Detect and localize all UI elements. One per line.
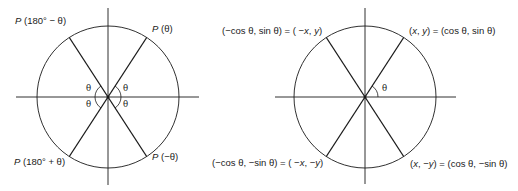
label-p-180-minus-theta: P (180° − θ): [15, 15, 66, 26]
left-angle-label-upper-right: θ: [123, 84, 128, 93]
label-cos-neg-sin: (x, −y) = (cos θ, −sin θ): [410, 158, 507, 169]
right-radius-q4: [365, 97, 404, 157]
left-angle-label-lower-right: θ: [123, 100, 128, 109]
right-radius-q3: [326, 97, 365, 157]
left-angle-label-lower-left: θ: [86, 100, 91, 109]
right-origin-dot: [364, 96, 367, 99]
label-p-theta: P (θ): [152, 23, 173, 34]
right-radius-q2: [326, 38, 365, 98]
label-p-180-plus-theta: P (180° + θ): [14, 156, 65, 167]
label-neg-cos-neg-sin: (−cos θ, −sin θ) = ( −x, −y): [212, 157, 323, 168]
right-angle-label: θ: [382, 84, 387, 93]
left-origin-dot: [107, 96, 110, 99]
label-neg-cos-sin: (−cos θ, sin θ) = ( −x, y): [222, 25, 322, 36]
label-cos-sin: (x, y) = (cos θ, sin θ): [409, 25, 495, 36]
left-angle-label-upper-left: θ: [86, 84, 91, 93]
right-angle-arc: [372, 86, 378, 97]
label-p-minus-theta: P (−θ): [152, 151, 178, 162]
